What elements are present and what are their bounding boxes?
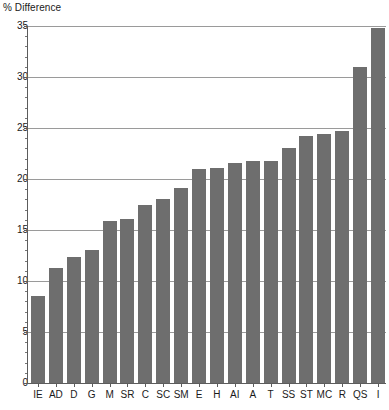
- gridline-5: [28, 332, 386, 333]
- bar: [335, 131, 349, 383]
- bar: [317, 134, 331, 383]
- bar: [228, 163, 242, 383]
- x-axis-tick-mark: [306, 384, 307, 387]
- bar: [67, 257, 81, 383]
- gridline-15: [28, 230, 386, 231]
- x-axis-tick-mark: [38, 384, 39, 387]
- y-axis-tick-group: 05101520253035: [0, 0, 28, 410]
- bar: [246, 161, 260, 383]
- bar: [264, 161, 278, 383]
- x-axis-tick-mark: [342, 384, 343, 387]
- x-axis-tick-mark: [324, 384, 325, 387]
- bar: [192, 169, 206, 383]
- bar: [210, 168, 224, 383]
- plot-area: [28, 26, 386, 383]
- x-axis-tick-mark: [217, 384, 218, 387]
- x-axis-tick-mark: [199, 384, 200, 387]
- gridline-30: [28, 77, 386, 78]
- x-axis-tick-label: I: [364, 389, 389, 400]
- x-axis-tick-mark: [92, 384, 93, 387]
- x-axis-tick-mark: [145, 384, 146, 387]
- x-axis-tick-mark: [235, 384, 236, 387]
- x-axis-tick-mark: [289, 384, 290, 387]
- y-axis-line: [27, 26, 28, 384]
- gridline-10: [28, 281, 386, 282]
- x-axis-tick-mark: [253, 384, 254, 387]
- bar: [120, 219, 134, 383]
- x-axis-line: [27, 383, 386, 384]
- bar: [174, 188, 188, 383]
- x-axis-tick-mark: [110, 384, 111, 387]
- bar: [103, 221, 117, 383]
- bar: [371, 28, 385, 383]
- x-axis-tick-mark: [74, 384, 75, 387]
- x-axis-tick-mark: [360, 384, 361, 387]
- bar: [31, 296, 45, 383]
- plot-top-border: [28, 26, 386, 27]
- x-axis-tick-mark: [163, 384, 164, 387]
- x-axis-tick-mark: [127, 384, 128, 387]
- bar: [353, 67, 367, 383]
- x-axis-tick-mark: [181, 384, 182, 387]
- bar: [282, 148, 296, 383]
- bar-chart: % Difference 05101520253035 IEADDGMSRCSC…: [0, 0, 389, 410]
- bar: [156, 199, 170, 383]
- bar: [299, 136, 313, 383]
- x-axis-tick-mark: [56, 384, 57, 387]
- x-axis-tick-mark: [378, 384, 379, 387]
- gridline-20: [28, 179, 386, 180]
- x-axis-tick-mark: [271, 384, 272, 387]
- bar: [138, 205, 152, 384]
- bar: [85, 250, 99, 383]
- gridline-25: [28, 128, 386, 129]
- bar: [49, 268, 63, 383]
